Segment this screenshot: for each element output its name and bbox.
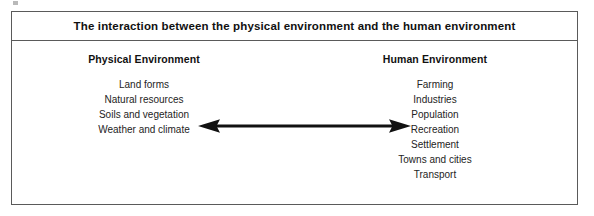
list-item: Natural resources	[24, 92, 264, 107]
list-item: Farming	[315, 77, 555, 92]
list-item: Towns and cities	[315, 152, 555, 167]
figure-title: The interaction between the physical env…	[74, 20, 516, 32]
double-headed-arrow-icon	[198, 117, 411, 135]
figure-title-bar: The interaction between the physical env…	[12, 12, 577, 41]
list-item: Settlement	[315, 137, 555, 152]
scan-artifact	[13, 1, 18, 5]
figure-box: The interaction between the physical env…	[11, 11, 578, 205]
figure-body: Physical Environment Land forms Natural …	[12, 41, 577, 204]
human-environment-column: Human Environment Farming Industries Pop…	[315, 41, 555, 182]
physical-environment-heading: Physical Environment	[24, 53, 264, 65]
list-item: Industries	[315, 92, 555, 107]
list-item: Transport	[315, 167, 555, 182]
list-item: Land forms	[24, 77, 264, 92]
human-environment-heading: Human Environment	[315, 53, 555, 65]
